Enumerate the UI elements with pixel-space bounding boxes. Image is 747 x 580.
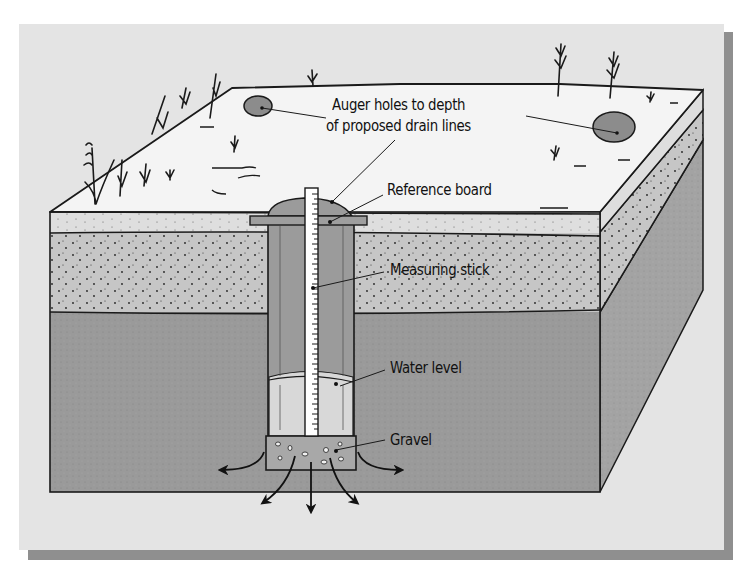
label-gravel: Gravel xyxy=(390,432,432,449)
label-auger-holes-line1: Auger holes to depth xyxy=(332,97,465,114)
auger-hole-right xyxy=(593,112,635,142)
label-water-level: Water level xyxy=(390,360,462,377)
label-reference-board: Reference board xyxy=(387,182,492,199)
auger-hole-left xyxy=(244,96,272,116)
diagram-canvas: Auger holes to depth of proposed drain l… xyxy=(0,0,747,580)
label-auger-holes-line2: of proposed drain lines xyxy=(326,118,471,135)
soil-block-illustration xyxy=(0,0,747,580)
label-measuring-stick: Measuring stick xyxy=(390,262,489,279)
